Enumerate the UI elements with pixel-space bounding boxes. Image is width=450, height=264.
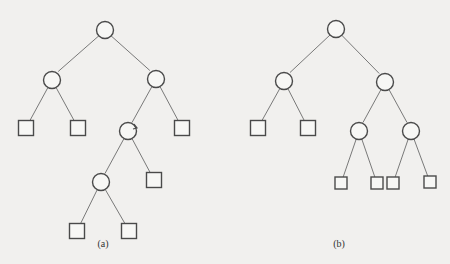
leaf-node-square xyxy=(335,177,347,189)
tree-edge xyxy=(290,35,330,72)
leaf-node-square xyxy=(424,176,436,188)
tree-edge xyxy=(111,36,150,71)
tree-edge xyxy=(132,86,152,122)
leaf-node-square xyxy=(147,173,162,188)
internal-node-circle xyxy=(403,123,420,140)
tree-edge xyxy=(160,87,178,121)
tree-edge xyxy=(81,190,98,224)
tree-edge xyxy=(262,88,280,120)
binary-tree-diagram: (a) (b) xyxy=(0,0,450,264)
leaf-node-square xyxy=(19,121,34,136)
tree-edge xyxy=(389,90,407,123)
tree-edge xyxy=(363,90,381,123)
tree-edge xyxy=(105,189,125,223)
leaf-node-square xyxy=(301,121,316,136)
internal-node-circle xyxy=(120,123,137,140)
internal-node-circle xyxy=(148,71,165,88)
tree-edge xyxy=(343,139,356,177)
tree-edge xyxy=(288,89,304,121)
internal-node-circle xyxy=(328,21,345,38)
internal-node-circle xyxy=(377,74,394,91)
tree-edge xyxy=(414,139,428,176)
caption-tree-b: (b) xyxy=(333,238,345,250)
leaf-node-square xyxy=(251,121,266,136)
tree-edge xyxy=(362,139,375,177)
leaf-node-square xyxy=(71,121,86,136)
tree-edge xyxy=(105,139,124,174)
internal-node-circle xyxy=(93,174,110,191)
tree-edge xyxy=(132,139,150,173)
internal-node-circle xyxy=(97,22,114,39)
leaf-node-square xyxy=(70,224,85,239)
tree-edge xyxy=(30,87,48,120)
internal-node-circle xyxy=(44,72,61,89)
tree-edge xyxy=(395,139,408,177)
tree-edge xyxy=(56,87,74,120)
leaf-node-square xyxy=(387,177,399,189)
captions-layer: (a) (b) xyxy=(97,238,344,250)
internal-node-circle xyxy=(351,123,368,140)
leaf-node-square xyxy=(371,177,383,189)
internal-node-circle xyxy=(276,73,293,90)
tree-edge xyxy=(58,36,99,72)
leaf-node-square xyxy=(122,224,137,239)
leaf-node-square xyxy=(175,121,190,136)
tree-edge xyxy=(342,35,379,73)
caption-tree-a: (a) xyxy=(97,238,108,250)
nodes-layer xyxy=(19,21,437,239)
